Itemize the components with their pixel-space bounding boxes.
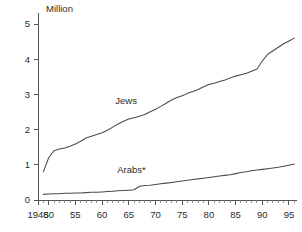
series-label-arabs: Arabs* — [117, 164, 146, 175]
y-tick-label: 3 — [25, 89, 30, 100]
x-tick-label: 70 — [150, 209, 161, 220]
series-label-jews: Jews — [115, 95, 137, 106]
y-tick-label: 1 — [25, 159, 30, 170]
chart-canvas: Million012345194850556065707580859095Jew… — [0, 0, 302, 232]
population-line-chart: Million012345194850556065707580859095Jew… — [0, 0, 302, 232]
x-tick-label: 80 — [204, 209, 215, 220]
y-tick-label: 5 — [25, 18, 30, 29]
data-line-arabs — [43, 164, 294, 194]
x-tick-label: 50 — [43, 209, 54, 220]
unit-label: Million — [46, 3, 73, 14]
x-tick-label: 65 — [123, 209, 134, 220]
x-tick-label: 60 — [97, 209, 108, 220]
y-tick-label: 0 — [25, 194, 30, 205]
x-tick-label: 55 — [70, 209, 81, 220]
y-tick-label: 2 — [25, 124, 30, 135]
data-line-jews — [43, 38, 294, 172]
x-tick-label: 75 — [177, 209, 188, 220]
x-tick-label: 85 — [230, 209, 241, 220]
x-tick-label: 95 — [284, 209, 295, 220]
y-tick-label: 4 — [25, 54, 30, 65]
x-tick-label: 90 — [257, 209, 268, 220]
